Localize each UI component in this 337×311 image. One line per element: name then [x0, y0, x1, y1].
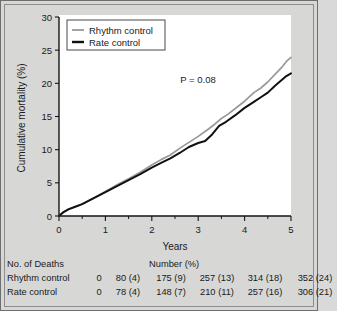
cell-rate-5: 306 (21): [289, 285, 337, 299]
cell-rate-3: 210 (11): [193, 285, 241, 299]
mortality-line-chart: 051015202530012345 Rhythm controlRate co…: [1, 1, 319, 259]
x-axis-title: Years: [162, 241, 187, 252]
deaths-table-area: No. of Deaths Number (%) Rhythm control …: [1, 257, 319, 311]
header-spacer-3: [193, 257, 241, 271]
cell-rhythm-0: 0: [91, 271, 107, 285]
table-subtitle: Number (%): [149, 257, 193, 271]
y-tick-label-15: 15: [41, 111, 52, 122]
chart-legend[interactable]: Rhythm controlRate control: [67, 20, 165, 50]
legend-label-0[interactable]: Rhythm control: [89, 25, 153, 36]
cell-rate-2: 148 (7): [149, 285, 193, 299]
header-spacer-5: [289, 257, 337, 271]
cell-rhythm-3: 257 (13): [193, 271, 241, 285]
header-spacer-1: [107, 257, 149, 271]
table-title: No. of Deaths: [7, 257, 91, 271]
y-tick-label-25: 25: [41, 45, 52, 56]
x-tick-label-0: 0: [56, 224, 61, 235]
x-tick-label-2: 2: [149, 224, 154, 235]
row-label-rate: Rate control: [7, 285, 91, 299]
cell-rhythm-5: 352 (24): [289, 271, 337, 285]
row-label-rhythm: Rhythm control: [7, 271, 91, 285]
legend-label-1[interactable]: Rate control: [89, 37, 140, 48]
x-tick-label-1: 1: [103, 224, 108, 235]
x-tick-label-3: 3: [196, 224, 201, 235]
x-tick-label-5: 5: [288, 224, 293, 235]
cell-rate-4: 257 (16): [241, 285, 289, 299]
y-tick-label-20: 20: [41, 78, 52, 89]
header-spacer-0: [91, 257, 107, 271]
deaths-table: No. of Deaths Number (%) Rhythm control …: [7, 257, 337, 299]
p-value-annotation: P = 0.08: [180, 74, 215, 85]
y-axis-title: Cumulative mortality (%): [16, 64, 27, 173]
chart-area: 051015202530012345 Rhythm controlRate co…: [1, 1, 319, 259]
cell-rhythm-4: 314 (18): [241, 271, 289, 285]
cell-rhythm-1: 80 (4): [107, 271, 149, 285]
cell-rate-0: 0: [91, 285, 107, 299]
y-tick-label-0: 0: [47, 211, 52, 222]
x-tick-label-4: 4: [242, 224, 247, 235]
table-header-row: No. of Deaths Number (%): [7, 257, 337, 271]
header-spacer-4: [241, 257, 289, 271]
cell-rhythm-2: 175 (9): [149, 271, 193, 285]
table-row: Rate control 0 78 (4) 148 (7) 210 (11) 2…: [7, 285, 337, 299]
table-row: Rhythm control 0 80 (4) 175 (9) 257 (13)…: [7, 271, 337, 285]
y-tick-label-10: 10: [41, 144, 52, 155]
y-tick-label-5: 5: [47, 177, 52, 188]
cell-rate-1: 78 (4): [107, 285, 149, 299]
y-tick-label-30: 30: [41, 12, 52, 23]
